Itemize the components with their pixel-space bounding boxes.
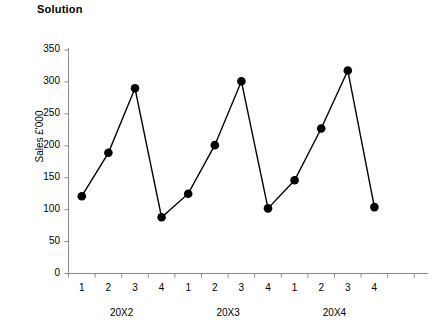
- chart-page: Solution Sales £'000 0501001502002503003…: [0, 0, 433, 330]
- data-point-marker: [370, 203, 379, 212]
- x-axis-ticks: [69, 274, 415, 278]
- data-point-marker: [78, 192, 87, 201]
- data-point-marker: [104, 149, 113, 158]
- data-point-marker: [344, 66, 353, 75]
- data-point-marker: [237, 77, 246, 86]
- series-markers: [78, 66, 379, 221]
- y-axis-ticks: [65, 50, 69, 274]
- data-point-marker: [157, 213, 166, 222]
- series-line: [82, 70, 375, 217]
- data-point-marker: [211, 141, 220, 150]
- data-point-marker: [131, 84, 140, 93]
- data-point-marker: [264, 204, 273, 213]
- data-point-marker: [290, 176, 299, 185]
- line-chart-plot: [0, 0, 433, 330]
- data-point-marker: [317, 124, 326, 133]
- data-point-marker: [184, 189, 193, 198]
- axis-lines: [69, 48, 429, 274]
